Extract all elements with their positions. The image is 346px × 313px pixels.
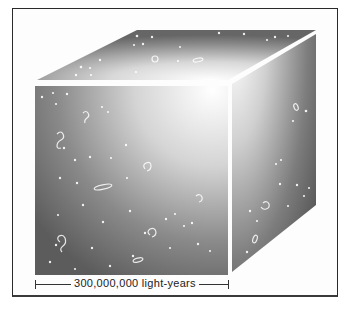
scale-bar-label: 300,000,000 light-years <box>71 277 199 289</box>
galaxy-cube-illustration <box>0 0 346 313</box>
cube-front-face <box>35 86 228 275</box>
scale-bar-right-tick <box>228 280 229 289</box>
scale-bar: 300,000,000 light-years <box>35 277 229 291</box>
